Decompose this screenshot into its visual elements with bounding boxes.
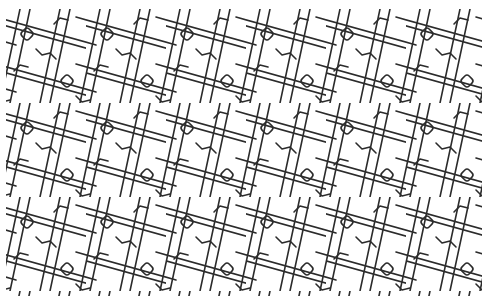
lattice-canvas xyxy=(0,0,485,300)
lattice-pattern-graphic xyxy=(6,9,482,296)
lattice-pattern xyxy=(6,9,482,296)
